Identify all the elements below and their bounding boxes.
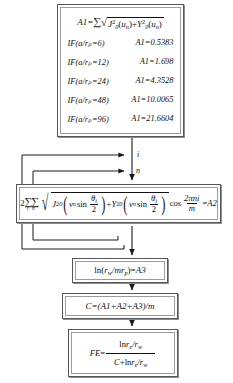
a3-symbol: A3	[136, 265, 146, 275]
a1-definition-box: A1=∑√J20(un)+Y20(un) IF(a/rₚ=6) A1=0.538…	[57, 4, 184, 137]
sigma-icon: ∑	[93, 17, 101, 27]
condition-result: A1=10.0065	[131, 95, 173, 105]
condition-result: A1=4.3528	[136, 76, 174, 86]
double-sigma-icon: ∑∑ i n	[25, 196, 39, 211]
condition-result: A1=1.698	[140, 57, 174, 67]
radical-icon: √J20(un)+Y20(un)	[101, 17, 164, 30]
condition-result: A1=0.5383	[136, 38, 174, 48]
condition-row: IF(a/rₚ=12) A1=1.698	[65, 57, 177, 67]
skin-factor-box: C=(A1+A2+A3)/m	[62, 293, 178, 319]
cos-argument-fraction: 2πni m	[182, 194, 201, 213]
a3-log-box: ln(rw/mrp)=A3	[72, 258, 168, 283]
condition-row: IF(a/rₚ=6) A1=0.5383	[65, 38, 177, 48]
cos-denominator: m	[187, 203, 197, 213]
condition-row: IF(a/rₚ=96) A1=21.6604	[65, 114, 177, 124]
loop-label-i: i	[137, 150, 139, 159]
a2-summation-box: 2 ∑∑ i n √ J20 ( vn sin θi 2 ) +	[16, 184, 221, 223]
fe-symbol: FE	[90, 349, 101, 358]
condition-label: IF(a/rₚ=6)	[68, 38, 105, 48]
fe-denominator: C+lnre/rw	[106, 353, 155, 370]
a2-symbol: A2	[207, 199, 217, 208]
flow-efficiency-box: FE = lnre/rw C+lnre/rw	[68, 329, 178, 377]
theta-over-two: θi 2	[89, 194, 99, 214]
a1-symbol: A1	[77, 17, 87, 27]
condition-result: A1=21.6604	[131, 114, 173, 124]
sum-indices: i n	[27, 206, 36, 211]
fe-fraction: lnre/rw C+lnre/rw	[106, 336, 155, 370]
a2-equation: 2 ∑∑ i n √ J20 ( vn sin θi 2 ) +	[20, 192, 217, 214]
condition-row: IF(a/rₚ=48) A1=10.0065	[65, 95, 177, 105]
condition-label: IF(a/rₚ=48)	[68, 95, 109, 105]
theta-over-two: θi 2	[149, 194, 159, 214]
condition-row: IF(a/rₚ=24) A1=4.3528	[65, 76, 177, 86]
condition-label: IF(a/rₚ=24)	[68, 76, 109, 86]
radical-icon: √ J20 ( vn sin θi 2 ) + Y20 ( vn sin	[39, 192, 168, 214]
loop-label-n: n	[136, 166, 140, 175]
a1-equation: A1=∑√J20(un)+Y20(un)	[77, 17, 164, 30]
condition-label: IF(a/rₚ=12)	[68, 57, 109, 67]
a3-equation: ln(rw/mrp)=A3	[94, 266, 145, 276]
cos-operator: cos	[170, 199, 181, 208]
cos-numerator: 2πni	[182, 194, 201, 203]
c-equation: C=(A1+A2+A3)/m	[85, 302, 154, 311]
fe-equation: FE = lnre/rw C+lnre/rw	[90, 336, 157, 370]
fe-numerator: lnre/rw	[111, 336, 150, 352]
condition-label: IF(a/rₚ=96)	[68, 114, 109, 124]
